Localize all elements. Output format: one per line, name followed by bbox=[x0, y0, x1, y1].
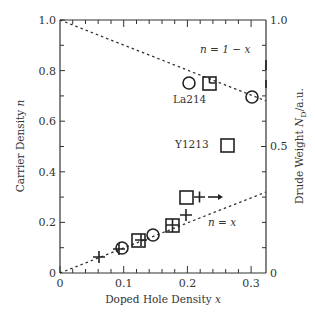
y2-axis-label: Drude Weight ND/a.u. bbox=[293, 88, 308, 204]
x-tick-label: 0 bbox=[57, 277, 64, 290]
square-marker bbox=[180, 191, 193, 204]
y2-tick-labels: 0 0.5 1.0 bbox=[270, 14, 288, 280]
y-tick-label: 1.0 bbox=[39, 14, 57, 27]
y2-tick-label: 1.0 bbox=[270, 14, 288, 27]
y-tick-label: 0 bbox=[49, 267, 56, 280]
plus-marker bbox=[93, 251, 105, 263]
y-axis-label: Carrier Density n bbox=[14, 99, 26, 192]
x-tick-label: 0.1 bbox=[115, 277, 133, 290]
y-tick-labels: 0 0.2 0.4 0.6 0.8 1.0 bbox=[39, 14, 57, 280]
label-la214: La214 bbox=[173, 93, 207, 105]
circle-marker bbox=[147, 229, 159, 241]
y-tick-label: 0.2 bbox=[39, 216, 57, 229]
plus-marker bbox=[194, 192, 205, 203]
line-n-equals-x bbox=[60, 192, 266, 273]
x-ticks bbox=[60, 20, 251, 273]
label-n-1-minus-x: n = 1 − x bbox=[200, 43, 250, 55]
plot-frame bbox=[60, 20, 266, 273]
x-axis-label: Doped Hole Density x bbox=[105, 293, 221, 305]
plus-marker bbox=[180, 209, 192, 221]
x-tick-labels: 0 0.1 0.2 0.3 bbox=[57, 277, 260, 290]
plus-marker bbox=[210, 77, 216, 83]
y-tick-label: 0.6 bbox=[39, 115, 57, 128]
y-tick-label: 0.8 bbox=[39, 65, 57, 78]
label-n-x: n = x bbox=[208, 216, 236, 228]
arrow-head-icon bbox=[218, 194, 223, 200]
line-n-equals-1-minus-x bbox=[60, 20, 266, 101]
y-tick-label: 0.4 bbox=[39, 166, 57, 179]
circle-marker bbox=[183, 77, 195, 89]
x-tick-label: 0.2 bbox=[179, 277, 197, 290]
y2-tick-label: 0 bbox=[270, 267, 277, 280]
square-marker bbox=[221, 139, 234, 152]
label-y1213: Y1213 bbox=[174, 138, 209, 150]
y2-tick-label: 0.5 bbox=[270, 140, 288, 153]
x-tick-label: 0.3 bbox=[242, 277, 260, 290]
chart: 0 0.1 0.2 0.3 0 0.2 0.4 0.6 0.8 1.0 0 0.… bbox=[0, 0, 315, 314]
